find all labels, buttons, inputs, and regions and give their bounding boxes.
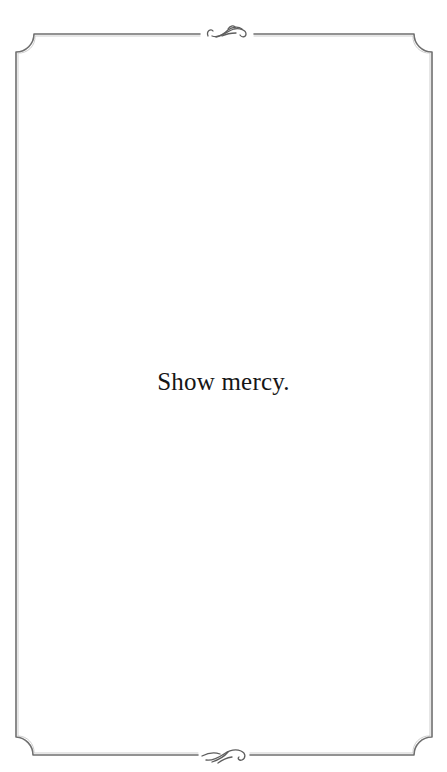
bottom-flourish-icon — [202, 750, 245, 763]
top-flourish-icon — [208, 26, 246, 37]
message-text: Show mercy. — [0, 362, 447, 402]
